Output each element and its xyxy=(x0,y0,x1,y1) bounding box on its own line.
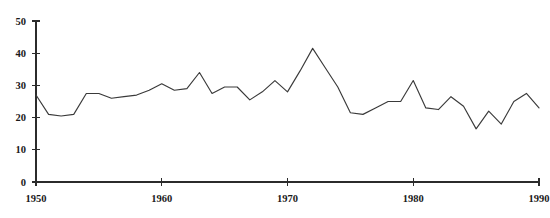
y-tick-label-0: 0 xyxy=(21,177,26,188)
x-tick-labels: 19501960197019801990 xyxy=(26,193,550,204)
y-tick-label-30: 30 xyxy=(16,80,27,91)
y-tick-label-50: 50 xyxy=(16,16,27,27)
x-tick-label-1950: 1950 xyxy=(26,193,47,204)
x-tick-label-1990: 1990 xyxy=(529,193,550,204)
y-tick-label-10: 10 xyxy=(16,144,27,155)
line-chart: 01020304050 19501960197019801990 xyxy=(0,0,550,218)
x-tick-label-1970: 1970 xyxy=(277,193,298,204)
y-tick-label-20: 20 xyxy=(16,112,27,123)
chart-canvas: 01020304050 19501960197019801990 xyxy=(0,0,550,218)
x-tick-label-1960: 1960 xyxy=(151,193,172,204)
data-series-group xyxy=(36,48,539,129)
y-tick-labels: 01020304050 xyxy=(16,16,27,188)
y-tick-label-40: 40 xyxy=(16,48,27,59)
x-tick-label-1980: 1980 xyxy=(403,193,424,204)
axes-group xyxy=(36,21,539,182)
data-line-series-1 xyxy=(36,48,539,129)
